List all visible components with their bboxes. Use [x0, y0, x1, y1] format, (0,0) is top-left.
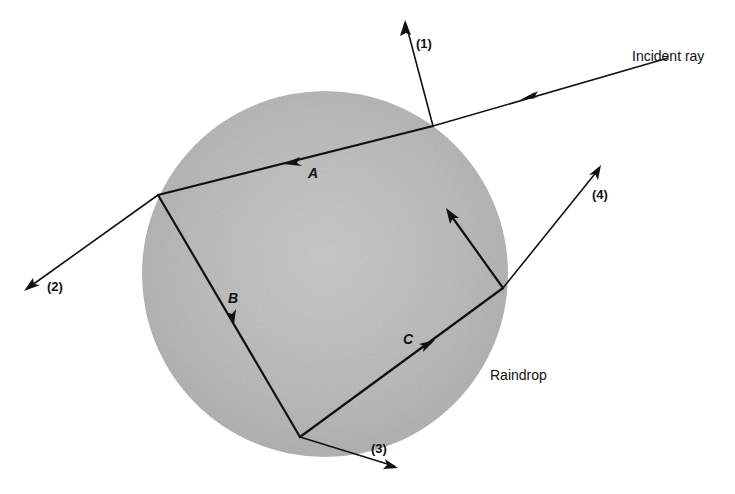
incident-ray-label: Incident ray [632, 48, 704, 64]
arrow-icon [24, 278, 40, 291]
ray-4 [503, 170, 598, 288]
ray-2 [28, 195, 158, 288]
incident-ray [433, 58, 668, 126]
raindrop-diagram: (1) Incident ray A (4) (2) B C Raindrop … [0, 0, 735, 494]
arrow-icon [400, 20, 411, 36]
raindrop-circle [142, 91, 508, 457]
diagram-canvas [0, 0, 735, 494]
ray-2-label: (2) [47, 279, 63, 294]
ray-1-label: (1) [416, 36, 432, 51]
segment-b-label: B [228, 290, 238, 306]
segment-a-label: A [308, 165, 318, 181]
ray-4-label: (4) [592, 187, 608, 202]
ray-3-label: (3) [371, 441, 387, 456]
raindrop-label: Raindrop [490, 367, 547, 383]
segment-c-label: C [403, 331, 413, 347]
